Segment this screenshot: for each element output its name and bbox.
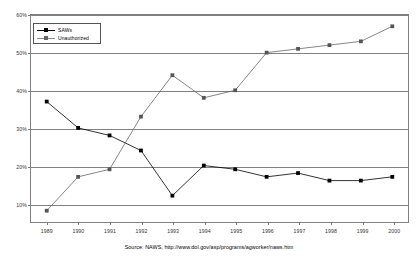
data-point-saws [328, 179, 332, 183]
x-tick-label: 1993 [167, 228, 179, 234]
legend-label-saws: SAWs [58, 27, 72, 33]
x-tick-mark [142, 222, 143, 225]
x-tick-label: 1990 [72, 228, 84, 234]
x-tick-mark [268, 222, 269, 225]
data-point-unauthorized [328, 43, 332, 47]
x-tick-mark [173, 222, 174, 225]
series-line-saws [47, 102, 393, 196]
y-tick-label: 10% [16, 202, 27, 208]
x-tick-mark [236, 222, 237, 225]
series-layer [31, 15, 408, 222]
x-tick-mark [363, 222, 364, 225]
data-point-saws [265, 175, 269, 179]
x-tick-label: 2000 [388, 228, 400, 234]
data-point-unauthorized [139, 115, 143, 119]
data-point-unauthorized [108, 167, 112, 171]
chart-figure: 10%20%30%40%50%60% 198919901991199219931… [0, 0, 418, 262]
source-text: Source: NAWS, http://www.dol.gov/asp/pro… [125, 244, 294, 250]
data-point-saws [139, 149, 143, 153]
data-point-unauthorized [170, 73, 174, 77]
x-tick-mark [110, 222, 111, 225]
legend-item-unauthorized: Unauthorized [37, 34, 97, 42]
x-tick-label: 1995 [230, 228, 242, 234]
data-point-unauthorized [390, 24, 394, 28]
x-tick-mark [47, 222, 48, 225]
y-tick-label: 60% [16, 12, 27, 18]
series-line-unauthorized [47, 26, 393, 210]
data-point-saws [390, 175, 394, 179]
legend-marker-unauthorized [37, 35, 55, 42]
data-point-saws [76, 126, 80, 130]
data-point-unauthorized [265, 51, 269, 55]
data-point-saws [45, 100, 49, 104]
y-tick-label: 30% [16, 126, 27, 132]
x-tick-label: 1996 [262, 228, 274, 234]
x-tick-mark [205, 222, 206, 225]
data-point-saws [359, 179, 363, 183]
chart-legend: SAWs Unauthorized [33, 23, 101, 44]
plot-area: 10%20%30%40%50%60% 198919901991199219931… [30, 14, 409, 223]
x-tick-label: 1998 [325, 228, 337, 234]
data-point-saws [202, 164, 206, 168]
x-tick-mark [78, 222, 79, 225]
source-caption: Source: NAWS, http://www.dol.gov/asp/pro… [0, 244, 418, 250]
x-tick-label: 1997 [293, 228, 305, 234]
data-point-unauthorized [45, 209, 49, 213]
data-point-saws [170, 194, 174, 198]
legend-label-unauthorized: Unauthorized [58, 35, 89, 41]
x-tick-mark [331, 222, 332, 225]
x-tick-label: 1989 [41, 228, 53, 234]
x-tick-label: 1994 [199, 228, 211, 234]
legend-item-saws: SAWs [37, 26, 97, 34]
x-tick-mark [299, 222, 300, 225]
y-tick-label: 50% [16, 50, 27, 56]
data-point-unauthorized [76, 175, 80, 179]
x-tick-label: 1999 [357, 228, 369, 234]
data-point-saws [233, 167, 237, 171]
data-point-unauthorized [202, 96, 206, 100]
x-tick-mark [394, 222, 395, 225]
data-point-unauthorized [296, 47, 300, 51]
x-tick-label: 1991 [104, 228, 116, 234]
legend-marker-saws [37, 27, 55, 34]
x-tick-label: 1992 [136, 228, 148, 234]
data-point-unauthorized [359, 39, 363, 43]
data-point-saws [108, 134, 112, 138]
data-point-unauthorized [233, 88, 237, 92]
data-point-saws [296, 171, 300, 175]
y-tick-label: 40% [16, 88, 27, 94]
y-tick-label: 20% [16, 164, 27, 170]
